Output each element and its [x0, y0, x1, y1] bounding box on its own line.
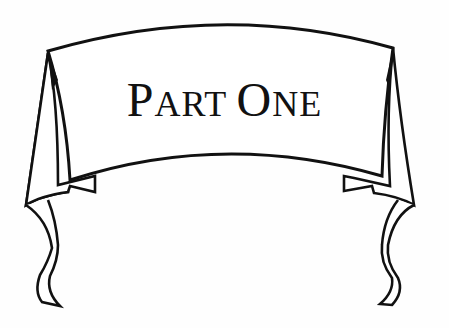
banner-title: PART ONE: [0, 72, 449, 127]
page: PART ONE: [0, 0, 449, 328]
title-letter-p: P: [127, 73, 155, 126]
right-ribbon: [380, 200, 414, 305]
title-letters-art: ART: [154, 84, 226, 124]
scroll-banner-graphic: [0, 0, 449, 328]
left-ribbon: [26, 200, 60, 306]
title-letter-o: O: [237, 73, 273, 126]
title-letters-ne: NE: [272, 84, 322, 124]
title-space: [227, 84, 237, 124]
